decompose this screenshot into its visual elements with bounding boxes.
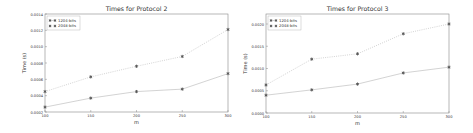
x-tick-label: 200 [133,114,141,118]
chart-protocol-2: Times for Protocol 20.00020.00040.00060.… [0,0,236,133]
data-point-marker [135,65,138,68]
y-axis-label: Time (s) [242,53,248,74]
series-1204-bits [265,66,451,97]
legend-marker [54,19,56,22]
figure: Times for Protocol 20.00020.00040.00060.… [0,0,473,133]
y-tick-label: 0.0012 [30,29,43,33]
y-tick-label: 0.0004 [30,94,43,98]
x-tick-label: 300 [446,115,454,119]
y-tick-label: 0.0006 [30,78,43,82]
legend-marker [54,25,56,28]
y-tick-label: 0.0005 [251,89,264,93]
legend: 1204-bits2048-bits [47,16,80,30]
y-tick-label: 0.0010 [30,45,43,49]
legend-marker [49,25,51,28]
y-tick-label: 0.0008 [30,62,43,66]
x-tick-label: 150 [87,114,95,118]
chart-title: Times for Protocol 2 [105,5,168,12]
y-tick-label: 0.0014 [30,13,43,17]
legend-marker [275,19,277,22]
legend-marker [270,19,272,22]
legend-label: 2048-bits [58,23,76,28]
x-tick-label: 100 [263,115,271,119]
x-tick-label: 200 [354,115,362,119]
chart-protocol-3-svg: Times for Protocol 30.00000.00050.00100.… [236,0,473,133]
x-tick-label: 100 [42,114,50,118]
series-1204-bits [44,72,230,109]
legend-marker [270,25,272,28]
chart-title: Times for Protocol 3 [326,5,389,12]
chart-protocol-2-svg: Times for Protocol 20.00020.00040.00060.… [0,0,236,133]
legend-label: 1204-bits [58,18,76,23]
x-tick-label: 250 [179,114,187,118]
series-2048-bits [265,22,451,86]
y-axis-label: Time (s) [21,53,27,74]
legend-marker [49,19,51,22]
x-tick-label: 150 [308,115,316,119]
data-point-marker [227,28,230,31]
legend-label: 2048-bits [279,23,297,28]
y-tick-label: 0.0015 [251,45,264,49]
legend: 1204-bits2048-bits [268,16,301,30]
x-axis-label: m [355,120,360,126]
x-tick-label: 300 [225,114,233,118]
legend-marker [275,25,277,28]
x-axis-label: m [134,119,139,125]
y-tick-label: 0.0020 [251,23,264,27]
data-point-marker [265,83,268,86]
x-tick-label: 250 [400,115,408,119]
series-2048-bits [44,28,230,93]
legend-label: 1204-bits [279,18,297,23]
chart-protocol-3: Times for Protocol 30.00000.00050.00100.… [236,0,473,133]
y-tick-label: 0.0010 [251,67,264,71]
